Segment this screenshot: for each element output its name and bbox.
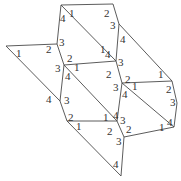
angle-label-F: 3 bbox=[55, 62, 61, 74]
angle-label-D: 3 bbox=[59, 36, 65, 48]
angle-label-O: 4 bbox=[113, 158, 119, 170]
angle-label-I: 2 bbox=[166, 83, 172, 95]
angle-label-N: 2 bbox=[126, 123, 132, 135]
angle-label-P: 3 bbox=[64, 94, 70, 106]
angle-label-K: 4 bbox=[167, 116, 173, 128]
edge-E-P bbox=[6, 46, 60, 101]
angle-label-M: 4 bbox=[113, 109, 119, 121]
edge-A-B bbox=[61, 4, 113, 5]
angle-label-F: 2 bbox=[67, 52, 73, 64]
angle-label-H: 2 bbox=[125, 73, 131, 85]
angle-label-K: 1 bbox=[159, 121, 165, 133]
angle-label-H: 3 bbox=[113, 81, 119, 93]
angle-label-N: 3 bbox=[116, 135, 122, 147]
edge-N-K bbox=[124, 127, 174, 137]
angle-label-H: 1 bbox=[132, 80, 138, 92]
edges-group bbox=[6, 4, 177, 176]
angle-label-C: 3 bbox=[110, 19, 116, 31]
angle-label-F: 1 bbox=[74, 61, 80, 73]
labels-group: 412343212314413223141234143211432234 bbox=[16, 7, 176, 170]
angle-label-G: 2 bbox=[106, 68, 112, 80]
angle-label-E: 1 bbox=[16, 47, 22, 59]
angle-label-J: 3 bbox=[170, 96, 176, 108]
angle-label-G: 1 bbox=[100, 43, 106, 55]
angle-label-P: 4 bbox=[46, 93, 52, 105]
angle-label-M: 1 bbox=[103, 111, 109, 123]
angle-label-A: 1 bbox=[69, 7, 75, 19]
angle-label-A: 4 bbox=[60, 12, 66, 24]
angle-label-B: 2 bbox=[104, 7, 110, 19]
angle-label-L: 1 bbox=[76, 120, 82, 132]
angle-label-F: 4 bbox=[65, 70, 71, 82]
angle-label-G: 4 bbox=[105, 48, 111, 60]
angle-label-L: 2 bbox=[68, 111, 74, 123]
angle-label-I: 1 bbox=[158, 68, 164, 80]
angle-label-G: 3 bbox=[118, 56, 124, 68]
angle-label-C: 4 bbox=[120, 33, 126, 45]
polygon-net-diagram: 412343212314413223141234143211432234 bbox=[0, 0, 181, 181]
angle-label-H: 4 bbox=[122, 88, 128, 100]
angle-label-D: 2 bbox=[46, 43, 52, 55]
angle-label-M: 2 bbox=[107, 125, 113, 137]
